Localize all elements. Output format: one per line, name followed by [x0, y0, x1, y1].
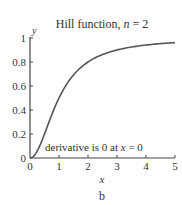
svg-text:5: 5 [172, 160, 178, 172]
svg-text:4: 4 [143, 160, 149, 172]
x-tick-labels: 0 1 2 3 4 5 [27, 160, 178, 172]
svg-text:0.4: 0.4 [12, 104, 26, 116]
x-axis-label: x [99, 173, 105, 185]
svg-text:1: 1 [56, 160, 62, 172]
svg-text:0.8: 0.8 [12, 56, 26, 68]
figure-caption: b [99, 189, 105, 203]
y-axis-label: y [31, 25, 37, 36]
svg-text:3: 3 [114, 160, 120, 172]
svg-text:0.2: 0.2 [12, 128, 26, 140]
svg-text:0.6: 0.6 [12, 80, 26, 92]
annotation: derivative is 0 at x = 0 [45, 141, 143, 153]
hill-function-chart: Hill function, n = 2 0 0.2 0.4 0.6 0.8 1… [0, 0, 182, 205]
svg-text:2: 2 [85, 160, 91, 172]
svg-text:0: 0 [27, 160, 33, 172]
chart-title: Hill function, n = 2 [56, 17, 148, 31]
svg-text:0: 0 [21, 152, 27, 164]
svg-text:1: 1 [21, 32, 27, 44]
y-tick-labels: 0 0.2 0.4 0.6 0.8 1 [12, 32, 26, 164]
